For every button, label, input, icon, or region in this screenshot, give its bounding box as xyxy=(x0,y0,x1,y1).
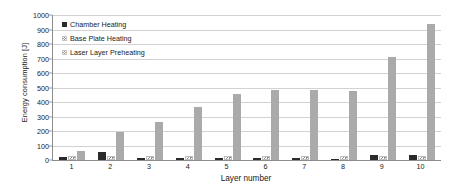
bar-laser-layer-preheating xyxy=(427,24,435,160)
x-axis-tick-labels: 12345678910 xyxy=(52,162,440,174)
x-tick-label: 9 xyxy=(380,162,384,171)
y-tick-label: 600 xyxy=(37,69,49,78)
bar-base-plate-heating xyxy=(107,156,115,160)
legend-label-base-plate-heating: Base Plate Heating xyxy=(70,34,132,43)
y-tick-label: 800 xyxy=(37,40,49,49)
y-tick-label: 300 xyxy=(37,112,49,121)
bar-group xyxy=(208,15,247,160)
x-tick-label: 5 xyxy=(225,162,229,171)
bar-chamber-heating xyxy=(215,158,223,160)
y-tick-label: 900 xyxy=(37,25,49,34)
y-tick-label: 700 xyxy=(37,54,49,63)
chart-legend: Chamber Heating Base Plate Heating Laser… xyxy=(62,17,182,59)
bar-base-plate-heating xyxy=(379,156,387,160)
bar-chamber-heating xyxy=(292,158,300,160)
y-axis-tick-labels: 01002003004005006007008009001000 xyxy=(14,15,52,160)
x-tick-label: 4 xyxy=(186,162,190,171)
bar-group xyxy=(402,15,441,160)
bar-base-plate-heating xyxy=(185,156,193,160)
x-tick-label: 10 xyxy=(417,162,425,171)
x-tick-label: 1 xyxy=(69,162,73,171)
y-tick-label: 1000 xyxy=(33,11,49,20)
legend-item-base-plate-heating: Base Plate Heating xyxy=(62,31,182,45)
legend-label-chamber-heating: Chamber Heating xyxy=(70,20,126,29)
bar-group xyxy=(247,15,286,160)
bar-laser-layer-preheating xyxy=(349,91,357,160)
bar-laser-layer-preheating xyxy=(310,90,318,160)
legend-swatch-icon-base-plate-heating xyxy=(62,36,67,41)
bar-laser-layer-preheating xyxy=(271,90,279,160)
bar-chamber-heating xyxy=(370,155,378,160)
energy-consumption-bar-chart: Energy consumption [J] 01002003004005006… xyxy=(0,0,452,192)
bar-group xyxy=(286,15,325,160)
bar-chamber-heating xyxy=(253,158,261,160)
y-tick-label: 400 xyxy=(37,98,49,107)
bar-chamber-heating xyxy=(176,158,184,160)
y-tick-label: 100 xyxy=(37,141,49,150)
legend-swatch-icon-chamber-heating xyxy=(62,22,67,27)
bar-laser-layer-preheating xyxy=(155,122,163,160)
bar-group xyxy=(363,15,402,160)
legend-item-chamber-heating: Chamber Heating xyxy=(62,17,182,31)
x-tick-label: 8 xyxy=(341,162,345,171)
x-axis-title: Layer number xyxy=(52,174,440,183)
bar-group xyxy=(325,15,364,160)
bar-base-plate-heating xyxy=(418,156,426,160)
bar-laser-layer-preheating xyxy=(194,107,202,160)
bar-chamber-heating xyxy=(98,152,106,160)
bar-laser-layer-preheating xyxy=(233,94,241,160)
y-tick-label: 500 xyxy=(37,83,49,92)
bar-laser-layer-preheating xyxy=(388,57,396,160)
bar-chamber-heating xyxy=(137,158,145,160)
x-tick-label: 7 xyxy=(302,162,306,171)
y-tick-label: 200 xyxy=(37,127,49,136)
legend-label-laser-layer-preheating: Laser Layer Preheating xyxy=(70,48,145,57)
legend-swatch-icon-laser-layer-preheating xyxy=(62,50,67,55)
x-tick-label: 2 xyxy=(108,162,112,171)
bar-laser-layer-preheating xyxy=(116,132,124,160)
bar-base-plate-heating xyxy=(340,156,348,160)
bar-base-plate-heating xyxy=(262,156,270,160)
bar-base-plate-heating xyxy=(146,156,154,160)
x-tick-label: 6 xyxy=(263,162,267,171)
bar-base-plate-heating xyxy=(68,156,76,160)
bar-laser-layer-preheating xyxy=(77,151,85,160)
bar-base-plate-heating xyxy=(224,156,232,160)
bar-chamber-heating xyxy=(59,157,67,160)
bar-chamber-heating xyxy=(409,155,417,160)
legend-item-laser-layer-preheating: Laser Layer Preheating xyxy=(62,45,182,59)
bar-base-plate-heating xyxy=(301,156,309,160)
x-tick-label: 3 xyxy=(147,162,151,171)
bar-chamber-heating xyxy=(331,159,339,161)
